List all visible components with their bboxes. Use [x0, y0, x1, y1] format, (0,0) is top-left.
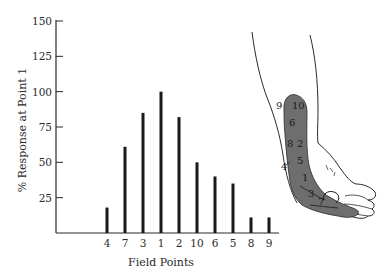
y-tick-label: 125 — [22, 50, 52, 62]
bar-point-9 — [268, 217, 271, 233]
bar-point-1 — [160, 92, 163, 233]
chart-root: 9 10 6 8 2 5 4 1 3 7 255075100125150 473… — [0, 0, 389, 277]
forearm-right-outline — [310, 35, 318, 143]
field-label-6: 6 — [289, 117, 295, 128]
y-ticks — [56, 21, 63, 198]
bar-point-10 — [196, 162, 199, 233]
x-tick-label: 8 — [241, 237, 261, 249]
x-tick-label: 3 — [133, 237, 153, 249]
bar-point-8 — [250, 217, 253, 233]
x-tick-label: 10 — [187, 237, 207, 249]
field-label-5: 5 — [297, 155, 303, 166]
x-tick-label: 7 — [115, 237, 135, 249]
knuckle-marks — [326, 165, 335, 176]
x-tick-label: 9 — [259, 237, 279, 249]
x-tick-label: 2 — [169, 237, 189, 249]
bar-point-5 — [232, 184, 235, 233]
bar-point-4 — [106, 208, 109, 233]
bars — [106, 92, 271, 233]
y-tick-label: 25 — [22, 192, 52, 204]
field-label-9: 9 — [276, 100, 282, 111]
plot-area: 9 10 6 8 2 5 4 1 3 7 — [0, 0, 389, 277]
x-tick-label: 6 — [205, 237, 225, 249]
field-label-2: 2 — [297, 138, 303, 149]
x-tick-label: 5 — [223, 237, 243, 249]
y-axis-title: % Response at Point 1 — [16, 68, 29, 192]
x-tick-label: 4 — [97, 237, 117, 249]
field-label-1: 1 — [302, 172, 308, 183]
field-label-10: 10 — [292, 100, 305, 111]
bar-point-7 — [124, 147, 127, 233]
field-label-4: 4 — [281, 161, 287, 172]
field-label-8: 8 — [287, 138, 293, 149]
bar-point-2 — [178, 117, 181, 233]
x-tick-label: 1 — [151, 237, 171, 249]
x-axis-title: Field Points — [128, 256, 194, 269]
bar-point-6 — [214, 176, 217, 233]
y-tick-label: 150 — [22, 15, 52, 27]
field-label-7: 7 — [318, 196, 324, 207]
bar-point-3 — [142, 113, 145, 233]
field-label-3: 3 — [308, 188, 314, 199]
hand-illustration: 9 10 6 8 2 5 4 1 3 7 — [252, 32, 376, 218]
